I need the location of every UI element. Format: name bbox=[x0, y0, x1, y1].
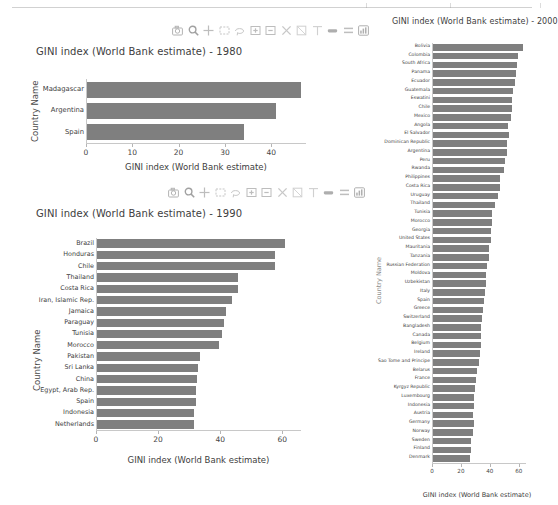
zoom-out-icon[interactable] bbox=[265, 25, 276, 36]
bar[interactable] bbox=[87, 82, 301, 98]
pan-icon[interactable] bbox=[199, 187, 210, 198]
bar[interactable] bbox=[433, 447, 471, 453]
bar[interactable] bbox=[97, 398, 196, 406]
bar[interactable] bbox=[433, 149, 507, 155]
bar[interactable] bbox=[97, 307, 226, 315]
bar[interactable] bbox=[433, 70, 516, 76]
y-tick-label: Pakistan bbox=[67, 353, 94, 359]
plot-area[interactable]: MadagascarArgentinaSpain010203040 bbox=[86, 79, 306, 143]
bar[interactable] bbox=[433, 254, 489, 260]
bar[interactable] bbox=[433, 167, 504, 173]
modebar-gini-1990[interactable] bbox=[168, 187, 365, 198]
bar[interactable] bbox=[433, 272, 486, 278]
bar[interactable] bbox=[433, 97, 512, 103]
bar[interactable] bbox=[433, 280, 486, 286]
bar[interactable] bbox=[433, 420, 474, 426]
reset-axes-icon[interactable] bbox=[296, 25, 307, 36]
bar[interactable] bbox=[433, 140, 507, 146]
bar[interactable] bbox=[433, 350, 480, 356]
bar[interactable] bbox=[433, 228, 491, 234]
bar[interactable] bbox=[433, 158, 505, 164]
bar[interactable] bbox=[97, 251, 275, 259]
hover-compare-icon[interactable] bbox=[327, 25, 338, 36]
autoscale-icon[interactable] bbox=[281, 25, 292, 36]
download-plot-icon[interactable] bbox=[172, 25, 183, 36]
bar[interactable] bbox=[433, 44, 523, 50]
zoom-icon[interactable] bbox=[188, 25, 199, 36]
box-select-icon[interactable] bbox=[215, 187, 226, 198]
bar[interactable] bbox=[433, 219, 492, 225]
bar[interactable] bbox=[433, 210, 492, 216]
bar[interactable] bbox=[97, 364, 198, 372]
bar[interactable] bbox=[433, 368, 477, 374]
hover-closest-icon[interactable] bbox=[343, 25, 354, 36]
bar[interactable] bbox=[433, 298, 484, 304]
bar[interactable] bbox=[433, 289, 485, 295]
pan-icon[interactable] bbox=[203, 25, 214, 36]
bar[interactable] bbox=[433, 62, 517, 68]
reset-axes-icon[interactable] bbox=[292, 187, 303, 198]
bar[interactable] bbox=[433, 175, 500, 181]
bar[interactable] bbox=[97, 386, 196, 394]
bar[interactable] bbox=[433, 123, 508, 129]
bar[interactable] bbox=[433, 105, 512, 111]
bar[interactable] bbox=[433, 79, 515, 85]
bar[interactable] bbox=[97, 262, 275, 270]
bar[interactable] bbox=[433, 412, 473, 418]
download-plot-icon[interactable] bbox=[168, 187, 179, 198]
bar[interactable] bbox=[433, 114, 511, 120]
bar[interactable] bbox=[433, 333, 481, 339]
box-select-icon[interactable] bbox=[219, 25, 230, 36]
plot-area[interactable]: BrazilHondurasChileThailandCosta RicaIra… bbox=[96, 238, 301, 430]
bar[interactable] bbox=[433, 403, 474, 409]
bar[interactable] bbox=[97, 239, 285, 247]
zoom-in-icon[interactable] bbox=[250, 25, 261, 36]
bar[interactable] bbox=[433, 184, 500, 190]
plotly-logo-icon[interactable] bbox=[358, 25, 369, 36]
toggle-spikelines-icon[interactable] bbox=[308, 187, 319, 198]
hover-closest-icon[interactable] bbox=[339, 187, 350, 198]
bar[interactable] bbox=[433, 315, 482, 321]
plotly-logo-icon[interactable] bbox=[354, 187, 365, 198]
bar[interactable] bbox=[433, 132, 509, 138]
zoom-icon[interactable] bbox=[184, 187, 195, 198]
bar[interactable] bbox=[433, 429, 473, 435]
bar[interactable] bbox=[97, 341, 219, 349]
bar[interactable] bbox=[97, 352, 200, 360]
bar[interactable] bbox=[433, 455, 470, 461]
bar[interactable] bbox=[433, 237, 491, 243]
lasso-select-icon[interactable] bbox=[230, 187, 241, 198]
bar[interactable] bbox=[433, 324, 481, 330]
bar[interactable] bbox=[87, 124, 244, 140]
bar[interactable] bbox=[433, 394, 474, 400]
bar[interactable] bbox=[433, 263, 487, 269]
bar[interactable] bbox=[97, 285, 238, 293]
bar[interactable] bbox=[433, 307, 483, 313]
modebar-gini-1980[interactable] bbox=[172, 25, 369, 36]
bar[interactable] bbox=[433, 385, 475, 391]
bar[interactable] bbox=[433, 88, 513, 94]
hover-compare-icon[interactable] bbox=[323, 187, 334, 198]
zoom-out-icon[interactable] bbox=[261, 187, 272, 198]
bar[interactable] bbox=[97, 330, 222, 338]
bar[interactable] bbox=[433, 377, 476, 383]
bar[interactable] bbox=[433, 359, 479, 365]
bar[interactable] bbox=[433, 53, 518, 59]
bar[interactable] bbox=[97, 273, 238, 281]
bar[interactable] bbox=[97, 409, 194, 417]
bar[interactable] bbox=[97, 375, 197, 383]
autoscale-icon[interactable] bbox=[277, 187, 288, 198]
bar[interactable] bbox=[433, 245, 489, 251]
bar[interactable] bbox=[97, 296, 232, 304]
bar[interactable] bbox=[433, 202, 495, 208]
bar[interactable] bbox=[433, 193, 498, 199]
lasso-select-icon[interactable] bbox=[234, 25, 245, 36]
plot-area[interactable]: BoliviaColombiaSouth AfricaPanamaEcuador… bbox=[432, 43, 526, 463]
zoom-in-icon[interactable] bbox=[246, 187, 257, 198]
bar[interactable] bbox=[97, 420, 194, 428]
bar[interactable] bbox=[433, 342, 481, 348]
bar[interactable] bbox=[433, 438, 471, 444]
toggle-spikelines-icon[interactable] bbox=[312, 25, 323, 36]
bar[interactable] bbox=[87, 103, 276, 119]
bar[interactable] bbox=[97, 319, 224, 327]
